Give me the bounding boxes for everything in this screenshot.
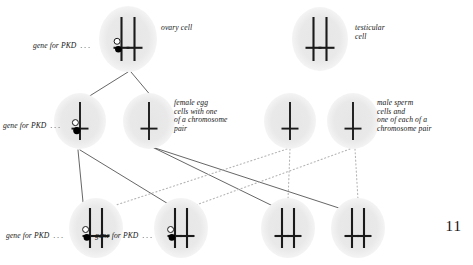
cell-membrane (99, 6, 157, 72)
male-sperm-cell-1 (264, 93, 316, 149)
offspring-cell-pkd-1 (69, 198, 123, 258)
offspring-cell-normal-1 (261, 198, 315, 258)
label-gene-for-pkd-egg-cell-1: gene for PKD . . . (3, 122, 60, 131)
connection-dotted-sperm-cell-2-to-zygote-2 (196, 149, 350, 205)
label-gene-for-pkd-zygote-2: gene for PKD . . . (95, 232, 152, 241)
cell-membrane (261, 198, 315, 258)
gene-marker-open (72, 120, 78, 126)
cell-membrane (292, 7, 348, 71)
connection-solid-egg-cell-1-to-zygote-1 (78, 150, 83, 202)
gene-marker-open (168, 227, 174, 233)
female-egg-cell-normal (123, 93, 175, 149)
gene-marker-open (114, 38, 120, 44)
male-sperm-cell-2 (327, 93, 379, 149)
connection-solid-egg-cell-2-to-zygote-3 (152, 147, 275, 207)
female-egg-cell-pkd (54, 93, 106, 149)
connection-lines-layer (78, 72, 358, 210)
connection-solid-ovary-cell-to-egg-cell-1 (88, 72, 128, 97)
label-male-sperm-cells: male sperm cells and one of each of a ch… (377, 99, 432, 133)
gene-marker-filled (169, 234, 176, 241)
connection-solid-egg-cell-1-to-zygote-2 (80, 150, 170, 205)
cell-membrane (69, 198, 123, 258)
page-number: 11 (446, 218, 462, 235)
gene-marker-filled (84, 234, 91, 241)
label-gene-for-pkd-zygote-1: gene for PKD . . . (6, 232, 63, 241)
gene-marker-open (83, 227, 89, 233)
label-ovary-cell: ovary cell (161, 24, 192, 33)
pkd-inheritance-diagram: ovary cell testicular cell female egg ce… (0, 0, 473, 265)
gene-marker-filled (115, 46, 122, 53)
gene-marker-filled (73, 127, 80, 134)
connection-dotted-sperm-cell-2-to-zygote-4 (355, 149, 358, 200)
ovary-cell (99, 6, 157, 72)
offspring-cell-pkd-2 (154, 198, 208, 258)
cell-membrane (154, 198, 208, 258)
connection-dotted-sperm-cell-1-to-zygote-1 (116, 149, 287, 205)
label-testicular-cell: testicular cell (355, 24, 385, 41)
offspring-cell-normal-2 (331, 198, 385, 258)
label-gene-for-pkd-ovary-cell: gene for PKD . . . (33, 42, 90, 51)
label-female-egg-cells: female egg cells with one of a chromosom… (174, 99, 228, 133)
testicular-cell (292, 7, 348, 71)
cell-membrane (331, 198, 385, 258)
